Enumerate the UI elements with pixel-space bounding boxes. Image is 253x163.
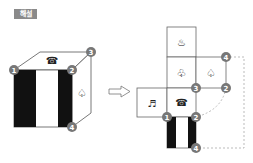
corner-badge-3: 3	[86, 47, 96, 57]
svg-text:4: 4	[224, 54, 229, 62]
phone-icon: ☎	[46, 55, 58, 66]
svg-text:3: 3	[89, 49, 94, 57]
diagram-canvas: ☎ ♤ 1 2 3 4 ♨ ♧ ♤ ♬ ☎	[0, 0, 253, 163]
svg-text:2: 2	[224, 85, 229, 93]
cube-front-left-bar	[14, 70, 36, 127]
net-badge-2-bottom: 2	[191, 112, 201, 122]
music-note-icon: ♬	[148, 98, 157, 109]
svg-text:4: 4	[70, 124, 75, 132]
corner-badge-1: 1	[9, 65, 19, 75]
corner-badge-4: 4	[67, 122, 77, 132]
net-badge-4-top: 4	[221, 52, 231, 62]
hot-springs-icon: ♨	[177, 37, 186, 48]
svg-text:3: 3	[194, 85, 199, 93]
spade-outline-icon: ♤	[206, 67, 216, 80]
svg-text:1: 1	[12, 67, 17, 75]
svg-text:2: 2	[194, 114, 199, 122]
net-badge-4-bottom: 4	[191, 143, 201, 153]
right-arrow-icon	[109, 86, 130, 97]
net-badge-1: 1	[162, 112, 172, 122]
spade-outline-icon: ♤	[77, 87, 87, 100]
svg-text:1: 1	[165, 114, 170, 122]
dotted-connector-2	[196, 88, 226, 117]
net-badge-3: 3	[191, 83, 201, 93]
cube-front-right-bar	[58, 70, 72, 127]
corner-badge-2: 2	[67, 65, 77, 75]
phone-icon: ☎	[175, 97, 187, 108]
cube-net: ♨ ♧ ♤ ♬ ☎ 4 3 2 1 2 4	[137, 27, 244, 153]
cube: ☎ ♤ 1 2 3 4	[9, 47, 96, 132]
club-outline-icon: ♧	[177, 67, 187, 80]
svg-text:2: 2	[70, 67, 75, 75]
net-badge-2-right: 2	[221, 83, 231, 93]
svg-text:4: 4	[194, 145, 199, 153]
